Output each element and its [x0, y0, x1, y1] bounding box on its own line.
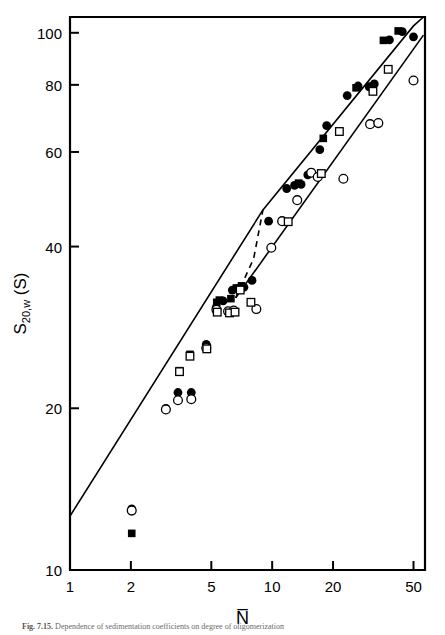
- data-point-filled-square: [380, 37, 388, 45]
- data-point-open-circle: [409, 76, 418, 85]
- data-point-open-circle: [187, 395, 196, 404]
- data-point-filled-circle: [409, 32, 418, 41]
- figure-caption: Fig. 7.15. Dependence of sedimentation c…: [22, 622, 432, 635]
- data-point-open-square: [384, 66, 392, 74]
- data-point-open-square: [369, 88, 377, 96]
- data-point-open-circle: [127, 506, 136, 515]
- data-point-open-square: [247, 299, 255, 307]
- data-point-filled-circle: [343, 91, 352, 100]
- figure-caption-text: Dependence of sedimentation coefficients…: [55, 622, 284, 631]
- plot-background: [0, 0, 445, 635]
- data-point-open-square: [213, 308, 221, 316]
- y-tick-label: 40: [45, 239, 62, 256]
- scatter-plot: 1020406080100125102050N̅S20,w (S): [0, 0, 445, 635]
- data-point-filled-square: [352, 84, 360, 92]
- x-tick-label: 50: [405, 578, 422, 595]
- data-point-open-square: [336, 128, 344, 136]
- data-point-open-square: [231, 308, 239, 316]
- data-point-open-circle: [366, 120, 375, 129]
- data-point-filled-circle: [248, 276, 257, 285]
- data-point-open-square: [236, 286, 244, 294]
- y-tick-label: 20: [45, 400, 62, 417]
- data-point-filled-square: [227, 295, 235, 303]
- data-point-open-circle: [374, 119, 383, 128]
- data-point-open-square: [318, 170, 326, 178]
- y-tick-label: 80: [45, 77, 62, 94]
- data-point-filled-circle: [282, 184, 291, 193]
- figure-caption-label: Fig. 7.15.: [22, 622, 53, 631]
- y-tick-label: 10: [45, 562, 62, 579]
- data-point-open-circle: [174, 396, 183, 405]
- x-tick-label: 10: [264, 578, 281, 595]
- y-tick-label: 100: [37, 25, 62, 42]
- data-point-filled-square: [216, 296, 224, 304]
- data-point-open-square: [186, 352, 194, 360]
- data-point-filled-circle: [322, 121, 331, 130]
- data-point-open-square: [284, 218, 292, 226]
- data-point-filled-square: [394, 27, 402, 35]
- figure-container: 1020406080100125102050N̅S20,w (S): [0, 0, 445, 635]
- data-point-open-square: [203, 345, 211, 353]
- data-point-filled-square: [319, 135, 327, 143]
- x-tick-label: 5: [207, 578, 215, 595]
- x-tick-label: 2: [127, 578, 135, 595]
- data-point-open-circle: [161, 405, 170, 414]
- data-point-filled-circle: [315, 145, 324, 154]
- data-point-filled-square: [128, 530, 136, 538]
- data-point-open-circle: [267, 243, 276, 252]
- data-point-open-circle: [339, 174, 348, 183]
- data-point-open-square: [176, 368, 184, 376]
- data-point-filled-square: [295, 179, 303, 187]
- data-point-filled-circle: [264, 217, 273, 226]
- y-tick-label: 60: [45, 144, 62, 161]
- x-tick-label: 20: [325, 578, 342, 595]
- x-tick-label: 1: [66, 578, 74, 595]
- data-point-open-circle: [293, 196, 302, 205]
